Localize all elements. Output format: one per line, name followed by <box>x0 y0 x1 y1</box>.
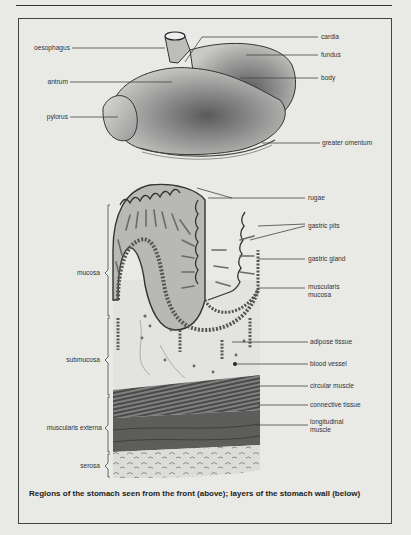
stomach-front-view <box>103 32 296 159</box>
label-body: body <box>321 74 335 82</box>
label-muscularis-mucosa: muscularis mucosa <box>308 283 340 299</box>
label-oesophagus: oesophagus <box>22 44 70 52</box>
label-serosa: serosa <box>40 462 100 470</box>
label-gastric-gland: gastric gland <box>308 255 345 263</box>
label-submucosa: submucosa <box>40 356 100 364</box>
label-longitudinal-muscle: longitudinal muscle <box>310 418 343 434</box>
layer-braces <box>105 205 110 477</box>
label-muscularis-externa: muscularis externa <box>20 424 102 432</box>
label-greater-omentum: greater omentum <box>322 139 372 147</box>
figure-caption: Regions of the stomach seen from the fro… <box>29 489 389 499</box>
label-gastric-pits: gastric pits <box>308 222 340 230</box>
label-fundus: fundus <box>321 51 341 59</box>
label-pylorus: pylorus <box>22 113 68 121</box>
label-blood-vessel: blood vessel <box>310 360 347 368</box>
label-antrum: antrum <box>22 78 68 86</box>
stomach-wall-section <box>113 184 260 478</box>
label-cardia: cardia <box>321 33 339 41</box>
label-adipose-tissue: adipose tissue <box>310 338 352 346</box>
label-rugae: rugae <box>308 194 325 202</box>
label-connective-tissue: connective tissue <box>310 401 361 409</box>
label-mucosa: mucosa <box>40 269 100 277</box>
label-circular-muscle: circular muscle <box>310 382 354 390</box>
